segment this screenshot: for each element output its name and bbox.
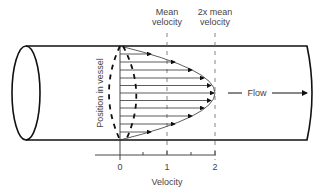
velocity-profile-diagram: Mean velocity 2x mean velocity Position … — [0, 0, 328, 195]
position-in-vessel-label: Position in vessel — [95, 53, 105, 133]
reference-lines — [167, 33, 215, 160]
mean-velocity-label: Mean velocity — [149, 7, 185, 27]
two-x-mean-velocity-label: 2x mean velocity — [194, 7, 236, 27]
x-tick-1: 1 — [161, 162, 173, 172]
x-tick-0: 0 — [114, 162, 126, 172]
x-tick-2: 2 — [209, 162, 221, 172]
flow-label: Flow — [244, 88, 270, 98]
x-axis — [95, 151, 216, 155]
velocity-arrows — [120, 54, 214, 132]
x-axis-label: Velocity — [145, 177, 189, 187]
